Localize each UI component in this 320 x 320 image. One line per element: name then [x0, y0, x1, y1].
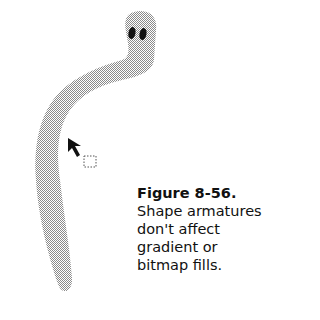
caption-line: Shape armatures — [137, 202, 268, 220]
arrow-cursor-icon — [68, 138, 81, 157]
figure-caption: Figure 8-56. Shape armatures don't affec… — [137, 184, 268, 274]
caption-line: bitmap fills. — [137, 256, 268, 274]
caption-line: don't affect — [137, 220, 268, 238]
figure-label: Figure 8-56. — [137, 184, 268, 202]
marquee-box — [84, 156, 96, 167]
caption-line: gradient or — [137, 238, 268, 256]
